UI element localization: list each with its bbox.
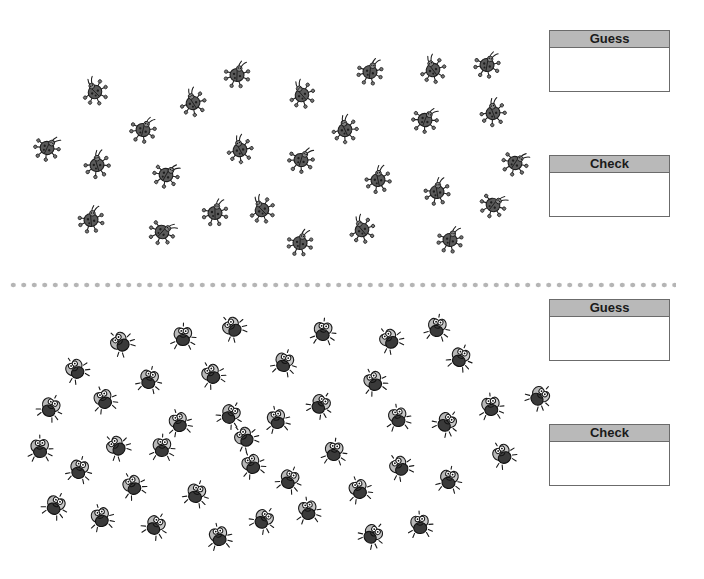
fly-icon — [30, 388, 70, 428]
fly-icon — [351, 514, 393, 556]
ladybug-icon — [172, 82, 213, 123]
dotted-divider — [8, 282, 676, 288]
fly-icon — [131, 362, 167, 398]
ladybug-icon — [494, 142, 536, 184]
ladybug-icon — [125, 112, 161, 148]
fly-icon — [291, 494, 325, 528]
fly-icon — [55, 349, 96, 390]
fly-icon — [475, 391, 508, 424]
fly-icon — [146, 432, 178, 464]
fly-icon — [404, 509, 436, 541]
ladybug-icon — [141, 211, 183, 253]
ladybug-icon — [146, 155, 187, 196]
fly-icon — [299, 384, 341, 426]
fly-icon — [25, 434, 56, 465]
ladybug-icon — [281, 74, 323, 116]
ladybug-guess-label: Guess — [550, 31, 669, 48]
fly-icon — [518, 376, 560, 418]
fly-icon — [340, 471, 378, 509]
ladybug-icon — [420, 175, 454, 209]
ladybug-icon — [472, 184, 514, 226]
ladybug-icon — [27, 128, 67, 168]
fly-icon — [177, 475, 215, 513]
fly-icon — [242, 499, 284, 541]
ladybug-check-input[interactable] — [550, 173, 669, 216]
fly-icon — [35, 486, 75, 526]
fly-icon — [201, 519, 237, 555]
fly-icon — [61, 452, 98, 489]
fly-icon — [134, 505, 175, 546]
fly-icon — [420, 311, 455, 346]
ladybug-icon — [284, 227, 316, 259]
ladybug-icon — [360, 162, 396, 198]
ladybug-guess-box[interactable]: Guess — [549, 30, 670, 92]
ladybug-icon — [241, 189, 283, 231]
ladybug-icon — [470, 48, 505, 83]
fly-icon — [232, 445, 272, 485]
fly-icon — [425, 402, 467, 444]
ladybug-icon — [282, 141, 320, 179]
ladybug-icon — [74, 71, 116, 113]
ladybug-icon — [325, 110, 365, 150]
fly-icon — [369, 319, 411, 361]
fly-icon — [482, 434, 523, 475]
ladybug-icon — [412, 49, 454, 91]
fly-icon — [85, 381, 124, 420]
ladybug-icon — [220, 130, 261, 171]
fly-icon — [440, 338, 479, 377]
fly-check-input[interactable] — [550, 442, 669, 485]
fly-icon — [212, 307, 254, 349]
fly-icon — [379, 446, 421, 488]
fly-icon — [167, 321, 198, 352]
fly-icon — [160, 404, 197, 441]
ladybug-icon — [405, 100, 444, 139]
ladybug-icon — [474, 94, 513, 133]
fly-icon — [431, 462, 466, 497]
fly-icon — [307, 316, 340, 349]
fly-icon — [317, 435, 350, 468]
fly-icon — [100, 322, 142, 364]
fly-icon — [269, 460, 308, 499]
fly-icon — [210, 395, 251, 436]
ladybug-icon — [75, 204, 108, 237]
ladybug-icon — [200, 198, 231, 229]
fly-check-label: Check — [550, 425, 669, 442]
fly-icon — [82, 499, 119, 536]
ladybug-guess-input[interactable] — [550, 48, 669, 91]
fly-check-box[interactable]: Check — [549, 424, 670, 486]
ladybug-section: Guess Check — [0, 0, 704, 280]
fly-icon — [354, 362, 394, 402]
fly-icon — [192, 355, 233, 396]
fly-icon — [265, 344, 303, 382]
fly-guess-input[interactable] — [550, 317, 669, 360]
ladybug-icon — [354, 56, 387, 89]
ladybug-check-label: Check — [550, 156, 669, 173]
ladybug-icon — [341, 209, 383, 251]
ladybug-icon — [433, 223, 466, 256]
fly-icon — [113, 466, 154, 507]
fly-icon — [224, 417, 266, 459]
ladybug-check-box[interactable]: Check — [549, 155, 670, 217]
ladybug-icon — [221, 59, 252, 90]
fly-guess-box[interactable]: Guess — [549, 299, 670, 361]
ladybug-icon — [78, 146, 115, 183]
fly-icon — [96, 426, 138, 468]
fly-icon — [259, 402, 295, 438]
fly-icon — [381, 401, 415, 435]
fly-guess-label: Guess — [550, 300, 669, 317]
